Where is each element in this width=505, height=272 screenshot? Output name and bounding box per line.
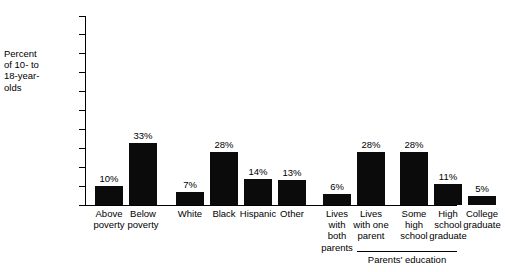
- bar: [129, 143, 157, 205]
- bar-group: 28%: [400, 16, 428, 205]
- bar-group: 33%: [129, 16, 157, 205]
- bar-value-label: 33%: [121, 130, 165, 141]
- bar-group: 6%: [323, 16, 351, 205]
- bar: [278, 180, 306, 205]
- bar-value-label: 6%: [315, 181, 359, 192]
- bar-group: 13%: [278, 16, 306, 205]
- bar-group: 10%: [95, 16, 123, 205]
- parents-education-bracket: [357, 251, 457, 252]
- parents-education-bracket-label: Parents' education: [352, 254, 462, 265]
- bar: [176, 192, 204, 205]
- bar: [434, 184, 462, 205]
- bar-value-label: 28%: [202, 139, 246, 150]
- bar-group: 7%: [176, 16, 204, 205]
- x-axis-category-label-line: poverty: [113, 219, 173, 230]
- bar: [468, 196, 496, 205]
- plot-area: 10%33%7%28%14%13%6%28%28%11%5%: [86, 16, 457, 205]
- bar-value-label: 7%: [168, 179, 212, 190]
- bar-group: 14%: [244, 16, 272, 205]
- bar-value-label: 13%: [270, 167, 314, 178]
- bar-group: 28%: [210, 16, 238, 205]
- bar: [95, 186, 123, 205]
- bar-group: 28%: [357, 16, 385, 205]
- bar: [210, 152, 238, 205]
- x-axis-category-label-line: College: [452, 208, 505, 219]
- bar-value-label: 5%: [460, 183, 504, 194]
- bar: [244, 179, 272, 205]
- bar-value-label: 28%: [392, 139, 436, 150]
- x-axis-category-label: Collegegraduate: [452, 208, 505, 230]
- bar: [400, 152, 428, 205]
- bar: [357, 152, 385, 205]
- x-axis-category-label-line: graduate: [452, 219, 505, 230]
- bar: [323, 194, 351, 205]
- x-axis-line: [85, 205, 457, 206]
- bar-value-label: 10%: [87, 173, 131, 184]
- bar-value-label: 28%: [349, 139, 393, 150]
- bar-value-label: 11%: [426, 171, 470, 182]
- x-axis-category-label-line: graduate: [418, 230, 478, 241]
- bar-group: 5%: [468, 16, 496, 205]
- bar-group: 11%: [434, 16, 462, 205]
